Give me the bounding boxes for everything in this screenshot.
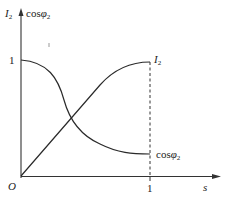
curve-cosphi2 [21, 60, 150, 154]
y-axis-label-cos: cosφ2 [26, 8, 50, 21]
curve-label-cos: cos [156, 148, 171, 160]
plot-area [0, 0, 225, 197]
y-axis-cos-text: cos [26, 7, 41, 19]
curve-label-I2: I2 [154, 54, 161, 67]
origin-label: O [8, 181, 16, 192]
artifact-mark [49, 43, 50, 47]
y-tick-label-1: 1 [9, 55, 15, 66]
y-axis-phi-sub: 2 [47, 13, 51, 21]
x-axis-label: s [203, 182, 207, 193]
y-axis-label-I-sub: 2 [9, 13, 13, 21]
curve-label-cosphi2: cosφ2 [156, 149, 180, 162]
curve-label-phi-sub: 2 [177, 154, 181, 162]
y-axis-arrow [19, 8, 24, 16]
chart: I2 cosφ2 1 O 1 s I2 cosφ2 [0, 0, 225, 197]
curve-label-I-sub: 2 [158, 59, 162, 67]
curve-I2 [21, 62, 150, 176]
x-axis-arrow [212, 174, 221, 179]
x-tick-label-1: 1 [147, 183, 153, 194]
y-axis-label: I2 [5, 8, 12, 21]
